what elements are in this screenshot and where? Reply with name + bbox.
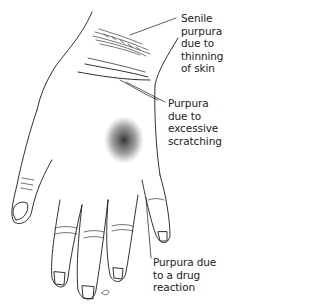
annotation-drug-reaction-purpura: Purpura due to a drug reaction bbox=[153, 256, 216, 294]
annotation-scratching-purpura: Purpura due to excessive scratching bbox=[168, 97, 222, 147]
annotation-senile-purpura: Senile purpura due to thinning of skin bbox=[181, 12, 223, 75]
purpura-stipple-patch bbox=[104, 116, 144, 164]
